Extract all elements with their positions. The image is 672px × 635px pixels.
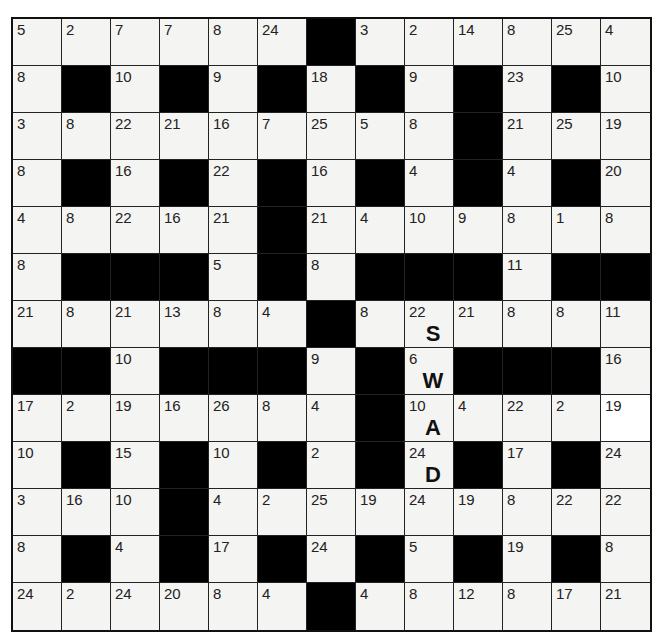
grid-cell[interactable]: 10 [111,348,160,395]
grid-cell[interactable]: 17 [209,536,258,583]
grid-cell[interactable]: 23 [503,66,552,113]
grid-cell[interactable]: 4 [111,536,160,583]
grid-cell[interactable]: 8 [503,19,552,66]
grid-cell[interactable]: 8 [503,583,552,630]
grid-cell[interactable]: 19 [601,113,650,160]
grid-cell[interactable]: 5 [13,19,62,66]
grid-cell[interactable]: 16 [209,113,258,160]
grid-cell[interactable]: 8 [601,207,650,254]
grid-cell[interactable]: 4 [405,160,454,207]
grid-cell[interactable]: 8 [13,254,62,301]
grid-cell[interactable]: 2 [62,583,111,630]
grid-cell[interactable]: 17 [503,442,552,489]
grid-cell[interactable]: 3 [356,19,405,66]
grid-cell[interactable]: 10 [13,442,62,489]
grid-cell[interactable]: 16 [307,160,356,207]
grid-cell[interactable]: 10 [111,66,160,113]
grid-cell[interactable]: 22S [405,301,454,348]
grid-cell[interactable]: 16 [160,207,209,254]
grid-cell[interactable]: 4 [356,207,405,254]
grid-cell[interactable]: 8 [209,19,258,66]
grid-cell[interactable]: 8 [503,207,552,254]
grid-cell[interactable]: 1 [552,207,601,254]
grid-cell[interactable]: 8 [62,301,111,348]
grid-cell[interactable]: 4 [454,395,503,442]
grid-cell[interactable]: 25 [307,113,356,160]
grid-cell[interactable]: 12 [454,583,503,630]
grid-cell[interactable]: 8 [13,66,62,113]
grid-cell[interactable]: 3 [13,113,62,160]
grid-cell[interactable]: 8 [405,113,454,160]
grid-cell[interactable]: 7 [160,19,209,66]
grid-cell[interactable]: 16 [111,160,160,207]
grid-cell[interactable]: 10 [111,489,160,536]
grid-cell[interactable]: 8 [13,160,62,207]
grid-cell[interactable]: 17 [13,395,62,442]
grid-cell[interactable]: 14 [454,19,503,66]
grid-cell[interactable]: 24 [601,442,650,489]
grid-cell[interactable]: 4 [209,489,258,536]
grid-cell[interactable]: 24 [258,19,307,66]
grid-cell[interactable]: 17 [552,583,601,630]
grid-cell[interactable]: 10 [209,442,258,489]
grid-cell[interactable]: 11 [601,301,650,348]
grid-cell[interactable]: 24D [405,442,454,489]
grid-cell[interactable]: 21 [209,207,258,254]
grid-cell[interactable]: 8 [307,254,356,301]
grid-cell[interactable]: 4 [258,301,307,348]
grid-cell[interactable]: 8 [503,301,552,348]
grid-cell[interactable]: 4 [356,583,405,630]
grid-cell[interactable]: 9 [209,66,258,113]
grid-cell[interactable]: 16 [601,348,650,395]
grid-cell[interactable]: 2 [307,442,356,489]
grid-cell[interactable]: 10 [601,66,650,113]
grid-cell[interactable]: 16 [160,395,209,442]
grid-cell[interactable]: 24 [405,489,454,536]
grid-cell[interactable]: 4 [601,19,650,66]
grid-cell[interactable]: 2 [62,395,111,442]
grid-cell[interactable]: 18 [307,66,356,113]
grid-cell[interactable]: 13 [160,301,209,348]
grid-cell[interactable]: 22 [503,395,552,442]
grid-cell[interactable]: 22 [601,489,650,536]
grid-cell[interactable]: 19 [111,395,160,442]
grid-cell[interactable]: 19 [503,536,552,583]
grid-cell[interactable]: 7 [111,19,160,66]
grid-cell[interactable]: 2 [405,19,454,66]
grid-cell[interactable]: 19 [356,489,405,536]
grid-cell[interactable]: 24 [111,583,160,630]
grid-cell[interactable]: 25 [307,489,356,536]
grid-cell[interactable]: 3 [13,489,62,536]
grid-cell[interactable]: 8 [356,301,405,348]
grid-cell[interactable]: 2 [258,489,307,536]
grid-cell[interactable]: 2 [552,395,601,442]
grid-cell[interactable]: 4 [307,395,356,442]
grid-cell[interactable]: 20 [160,583,209,630]
grid-cell[interactable]: 20 [601,160,650,207]
grid-cell[interactable]: 9 [454,207,503,254]
grid-cell[interactable]: 21 [503,113,552,160]
grid-cell[interactable]: 19 [601,395,650,442]
grid-cell[interactable]: 8 [209,583,258,630]
grid-cell[interactable]: 24 [13,583,62,630]
grid-cell[interactable]: 16 [62,489,111,536]
grid-cell[interactable]: 26 [209,395,258,442]
grid-cell[interactable]: 24 [307,536,356,583]
grid-cell[interactable]: 6W [405,348,454,395]
grid-cell[interactable]: 25 [552,113,601,160]
grid-cell[interactable]: 8 [258,395,307,442]
grid-cell[interactable]: 15 [111,442,160,489]
grid-cell[interactable]: 8 [62,113,111,160]
grid-cell[interactable]: 22 [552,489,601,536]
grid-cell[interactable]: 2 [62,19,111,66]
grid-cell[interactable]: 4 [13,207,62,254]
grid-cell[interactable]: 8 [13,536,62,583]
grid-cell[interactable]: 21 [13,301,62,348]
grid-cell[interactable]: 21 [160,113,209,160]
grid-cell[interactable]: 10A [405,395,454,442]
grid-cell[interactable]: 11 [503,254,552,301]
grid-cell[interactable]: 4 [258,583,307,630]
grid-cell[interactable]: 10 [405,207,454,254]
grid-cell[interactable]: 9 [307,348,356,395]
grid-cell[interactable]: 25 [552,19,601,66]
